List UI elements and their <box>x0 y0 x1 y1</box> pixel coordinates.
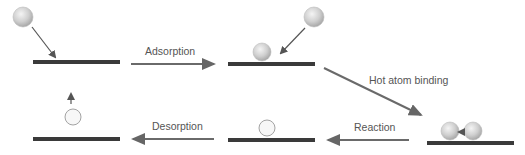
adsorbed-atom <box>253 43 271 61</box>
bound-atom-right <box>464 122 482 140</box>
product-molecule <box>259 120 275 136</box>
stage-incoming-atom <box>13 7 120 64</box>
desorption-label: Desorption <box>152 120 203 132</box>
hot-atom-binding-step: Hot atom binding <box>324 68 449 115</box>
stage-hot-atom-binding <box>427 122 514 145</box>
stage-desorption <box>33 94 120 141</box>
second-gas-atom <box>304 7 324 27</box>
gas-atom <box>13 7 33 27</box>
surface-2 <box>228 62 315 66</box>
desorption-step: Desorption <box>133 120 214 139</box>
surface-1 <box>33 60 120 64</box>
surface-reaction-diagram: Adsorption Hot atom binding Reaction Des… <box>0 0 525 155</box>
surface-3 <box>427 141 514 145</box>
hot-atom-binding-label: Hot atom binding <box>369 74 449 86</box>
reaction-label: Reaction <box>354 121 396 133</box>
adsorption-step: Adsorption <box>131 45 214 64</box>
incoming-arrow-icon <box>32 27 55 57</box>
adsorption-label: Adsorption <box>145 45 195 57</box>
stage-reaction <box>228 120 315 142</box>
desorbed-product <box>65 109 81 125</box>
surface-4 <box>228 138 315 142</box>
reaction-step: Reaction <box>328 121 409 140</box>
second-incoming-arrow-icon <box>281 28 305 53</box>
stage-adsorbed-atom <box>228 7 324 66</box>
surface-5 <box>33 137 120 141</box>
bound-atom-left <box>441 122 459 140</box>
